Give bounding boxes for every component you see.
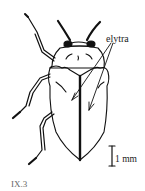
elytra-label: elytra: [106, 33, 129, 44]
antennae: [58, 21, 100, 40]
scale-bar-label: 1 mm: [115, 154, 137, 164]
figure-id-label: IX.3: [11, 179, 27, 189]
left-legs: [13, 14, 55, 164]
